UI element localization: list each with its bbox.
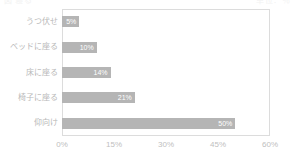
bar: 5% (62, 16, 79, 27)
category-label: ベッドに座る (0, 42, 58, 52)
bar: 21% (62, 92, 135, 103)
bar-value-label: 50% (218, 120, 235, 127)
category-label: 床に座る (0, 68, 58, 78)
bar: 10% (62, 42, 97, 53)
x-axis-tick-label: 60% (262, 140, 278, 150)
bar-chart: 図 寝る 単位：％ 5%10%14%21%50% うつ伏せベッドに座る床に座る椅… (0, 0, 296, 157)
x-axis-tick-label: 0% (56, 140, 68, 150)
clipped-header-right: 単位：％ (256, 0, 290, 5)
bar: 50% (62, 118, 235, 129)
bar-value-label: 10% (80, 44, 97, 51)
x-axis: 0%15%30%45%60% (62, 136, 270, 137)
category-label: 仰向け (0, 118, 58, 128)
bar-value-label: 14% (94, 69, 111, 76)
category-label: 椅子に座る (0, 93, 58, 103)
clipped-header-left: 図 寝る (4, 0, 32, 5)
x-axis-tick-label: 15% (106, 140, 122, 150)
bar-value-label: 5% (66, 18, 79, 25)
x-axis-tick-label: 30% (158, 140, 174, 150)
x-axis-tick-label: 45% (210, 140, 226, 150)
category-label: うつ伏せ (0, 17, 58, 27)
bar-value-label: 21% (118, 94, 135, 101)
bar: 14% (62, 67, 111, 78)
